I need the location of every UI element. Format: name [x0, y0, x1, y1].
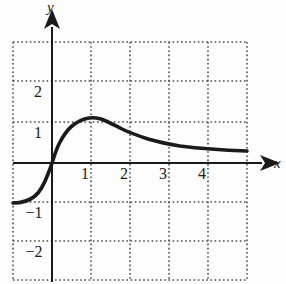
x-tick-label-4: 4: [195, 166, 209, 182]
graph-figure: y x 1 2 3 4 2 1 −1 −2: [0, 0, 286, 284]
y-axis-label: y: [47, 0, 54, 16]
y-tick-label-neg1: −1: [22, 205, 46, 221]
plot-canvas: [0, 0, 286, 284]
x-tick-label-1: 1: [78, 166, 92, 182]
y-tick-label-1: 1: [30, 125, 46, 141]
y-tick-label-2: 2: [30, 84, 46, 100]
x-tick-label-2: 2: [117, 166, 131, 182]
x-axis-label: x: [274, 155, 281, 172]
y-tick-label-neg2: −2: [22, 244, 46, 260]
x-tick-label-3: 3: [156, 166, 170, 182]
grid-lines-vertical: [13, 42, 247, 280]
